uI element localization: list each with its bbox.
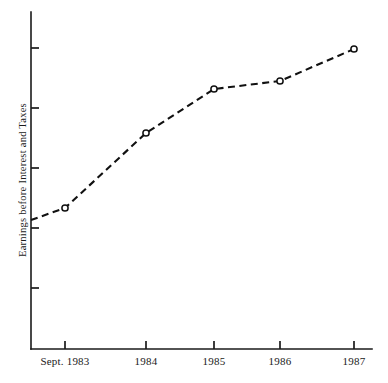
x-tick-label-3: 1986 <box>269 356 292 367</box>
x-axis-ticks <box>65 341 354 349</box>
x-tick-label-2: 1985 <box>203 356 226 367</box>
chart-plot-area <box>0 0 388 383</box>
y-axis-title: Earnings before Interest and Taxes <box>18 104 29 258</box>
earnings-data-markers <box>62 46 357 211</box>
data-point-marker <box>351 46 357 52</box>
data-point-marker <box>62 205 68 211</box>
data-point-marker <box>211 86 217 92</box>
chart-container: Earnings before Interest and Taxes Sept.… <box>0 0 388 383</box>
x-tick-label-0: Sept. 1983 <box>40 356 89 367</box>
data-point-marker <box>143 130 149 136</box>
data-point-marker <box>277 78 283 84</box>
x-tick-label-1: 1984 <box>135 356 158 367</box>
y-axis-ticks <box>31 48 39 288</box>
earnings-trend-line <box>31 49 354 220</box>
x-tick-label-4: 1987 <box>343 356 366 367</box>
